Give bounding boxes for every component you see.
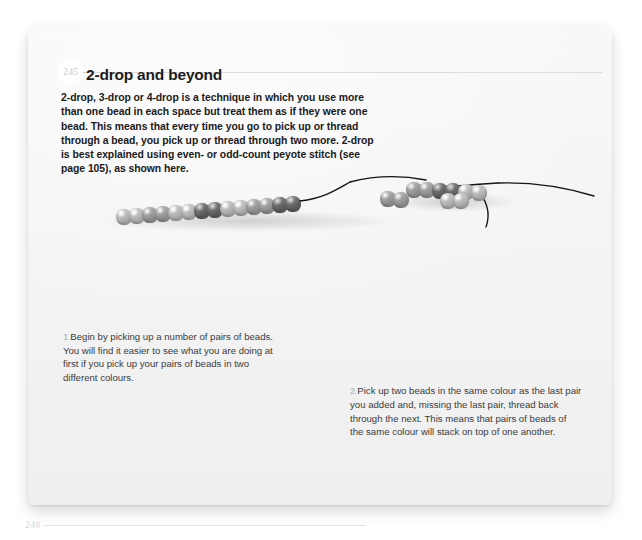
folio-top-number: 245 (58, 59, 84, 85)
folio-bottom-rule (44, 525, 366, 526)
step-2: 2Pick up two beads in the same colour as… (350, 384, 582, 438)
step-2-number: 2 (350, 385, 355, 396)
step-2-text: Pick up two beads in the same colour as … (350, 385, 581, 437)
step-1: 1Begin by picking up a number of pairs o… (63, 330, 281, 384)
folio-bottom-number: 246 (20, 512, 46, 538)
bead (453, 193, 469, 209)
folio-bottom: 246 (20, 512, 366, 538)
figure-paired-bead-strand (28, 174, 612, 249)
book-page-card: 245 2-drop and beyond 2-drop, 3-drop or … (28, 25, 612, 505)
step-1-text: Begin by picking up a number of pairs of… (63, 331, 273, 383)
step-1-number: 1 (63, 331, 68, 342)
bead (393, 192, 409, 208)
page-title: 2-drop and beyond (86, 66, 222, 84)
intro-paragraph: 2-drop, 3-drop or 4-drop is a technique … (61, 91, 376, 177)
bead (471, 185, 487, 201)
thread-line (28, 174, 612, 249)
paper-edge-mark (42, 31, 100, 39)
